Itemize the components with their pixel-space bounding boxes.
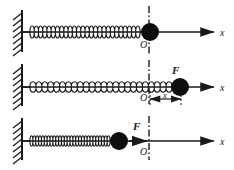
panel-compressed: OxF xyxy=(13,116,225,164)
spring-compressed xyxy=(30,136,110,147)
wall-hatch xyxy=(13,73,22,80)
wall-hatch xyxy=(13,91,22,98)
wall-hatch xyxy=(13,145,22,152)
wall-hatch xyxy=(13,97,22,104)
panel-equilibrium: Ox xyxy=(13,6,225,56)
wall-hatch xyxy=(13,157,22,164)
origin-label: O xyxy=(140,39,147,50)
axis-label-x: x xyxy=(219,27,225,38)
wall-hatch xyxy=(13,79,22,86)
figure-canvas: OxOxFxOxF xyxy=(0,0,234,170)
wall-hatch xyxy=(13,85,22,92)
wall-hatch xyxy=(13,133,22,140)
wall xyxy=(13,10,22,56)
wall xyxy=(13,64,22,110)
panel-stretched: OxFx xyxy=(13,60,225,110)
dimension-label-x: x xyxy=(162,90,167,100)
wall-hatch xyxy=(13,43,22,50)
spring-equilibrium xyxy=(30,26,140,38)
wall-hatch xyxy=(13,151,22,158)
mass-ball xyxy=(171,78,189,96)
axis-label-x: x xyxy=(219,136,225,147)
wall-hatch xyxy=(13,13,22,20)
axis-label-x: x xyxy=(219,82,225,93)
spring-mass-figure: OxOxFxOxF xyxy=(0,0,234,170)
wall-hatch xyxy=(13,103,22,110)
wall xyxy=(13,118,22,164)
force-label-F: F xyxy=(171,64,180,76)
wall-hatch xyxy=(13,37,22,44)
origin-label: O xyxy=(140,92,147,103)
wall-hatch xyxy=(13,121,22,128)
wall-hatch xyxy=(13,139,22,146)
wall-hatch xyxy=(13,19,22,26)
origin-label: O xyxy=(140,146,147,157)
wall-hatch xyxy=(13,49,22,56)
wall-hatch xyxy=(13,31,22,38)
wall-hatch xyxy=(13,25,22,32)
wall-hatch xyxy=(13,127,22,134)
mass-ball xyxy=(110,132,128,150)
wall-hatch xyxy=(13,67,22,74)
force-label-F: F xyxy=(132,120,141,132)
